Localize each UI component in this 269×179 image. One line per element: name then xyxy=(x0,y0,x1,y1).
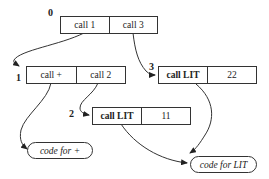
edge-3-to-code-lit xyxy=(190,84,212,153)
record-3: call LIT 22 xyxy=(158,66,257,84)
code-for-plus-node: code for + xyxy=(27,142,93,159)
edge-2-to-code-lit xyxy=(121,124,187,163)
record-2: call LIT 11 xyxy=(92,107,191,125)
record-0-cell-call-1: call 1 xyxy=(61,17,109,33)
record-2-cell-value: 11 xyxy=(141,108,190,124)
record-1-cell-call-plus: call + xyxy=(27,67,76,83)
record-3-cell-value: 22 xyxy=(207,67,256,83)
edge-0-to-1 xyxy=(14,33,84,66)
record-2-label: 2 xyxy=(69,108,74,119)
record-1-label: 1 xyxy=(16,72,21,83)
record-1: call + call 2 xyxy=(26,66,126,84)
record-0: call 1 call 3 xyxy=(60,16,158,34)
edge-1-to-code-plus xyxy=(20,83,51,149)
record-3-label: 3 xyxy=(149,61,154,72)
record-2-cell-call-lit: call LIT xyxy=(93,108,141,124)
record-3-cell-call-lit: call LIT xyxy=(159,67,207,83)
record-0-label: 0 xyxy=(48,7,53,18)
code-for-lit-node: code for LIT xyxy=(190,156,257,173)
record-0-cell-call-3: call 3 xyxy=(109,17,158,33)
record-1-cell-call-2: call 2 xyxy=(76,67,126,83)
